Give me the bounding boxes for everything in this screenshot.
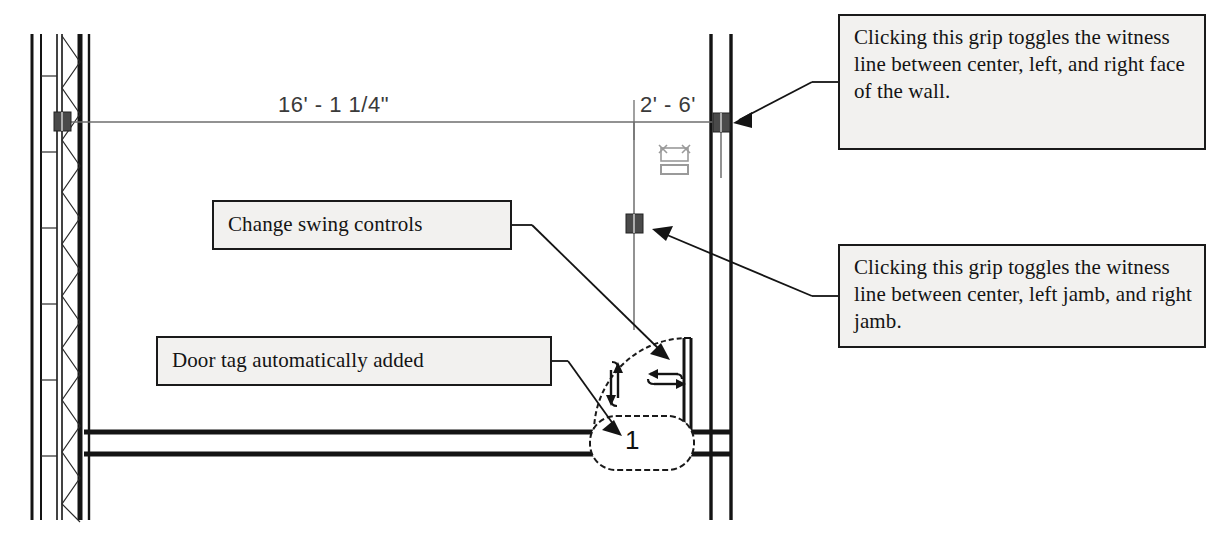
witness-line-grip-left-wall[interactable] bbox=[54, 112, 71, 131]
witness-line-grip-wall[interactable] bbox=[713, 113, 730, 132]
wall-stud-ticks bbox=[41, 76, 57, 456]
callout-jamb: Clicking this grip toggles the witness l… bbox=[838, 244, 1206, 348]
swing-control-flip-vertical-icon[interactable] bbox=[606, 362, 623, 406]
callout-door-tag-text: Door tag automatically added bbox=[172, 347, 424, 374]
leader-wall-face bbox=[733, 82, 838, 128]
swing-control-flip-horizontal-icon[interactable] bbox=[648, 369, 686, 389]
wall-insulation-hatch bbox=[62, 36, 80, 522]
drawing-canvas: 16' - 1 1/4" 2' - 6' 1 Clicking this gri… bbox=[0, 0, 1216, 556]
dimension-label-wall-run[interactable]: 16' - 1 1/4" bbox=[278, 92, 389, 118]
right-wall[interactable] bbox=[711, 34, 731, 520]
callout-wall-face-text: Clicking this grip toggles the witness l… bbox=[854, 24, 1192, 105]
dimension-label-door-offset[interactable]: 2' - 6' bbox=[640, 92, 696, 118]
leader-jamb bbox=[652, 226, 838, 296]
witness-line-grip-jamb[interactable] bbox=[626, 214, 643, 233]
callout-door-tag: Door tag automatically added bbox=[156, 336, 552, 386]
callout-swing-controls-text: Change swing controls bbox=[228, 211, 423, 238]
door-tag-number[interactable]: 1 bbox=[625, 425, 639, 456]
door-tag[interactable] bbox=[590, 416, 694, 470]
callout-wall-face: Clicking this grip toggles the witness l… bbox=[838, 14, 1206, 150]
callout-swing-controls: Change swing controls bbox=[212, 200, 512, 250]
left-wall[interactable] bbox=[32, 34, 89, 522]
callout-jamb-text: Clicking this grip toggles the witness l… bbox=[854, 254, 1192, 335]
move-constraint-widget-icon[interactable] bbox=[659, 145, 690, 174]
